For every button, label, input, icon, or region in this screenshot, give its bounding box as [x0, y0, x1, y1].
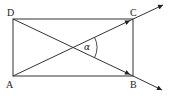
label-d: D	[7, 7, 14, 18]
diagonal-ac	[13, 21, 130, 77]
rectangle-diagonals-diagram: D C A B α	[0, 0, 175, 96]
label-b: B	[130, 79, 137, 90]
diagonal-db	[13, 19, 130, 75]
angle-arc-alpha	[95, 37, 97, 58]
label-alpha: α	[84, 42, 90, 52]
label-c: C	[130, 7, 137, 18]
label-a: A	[6, 79, 14, 90]
